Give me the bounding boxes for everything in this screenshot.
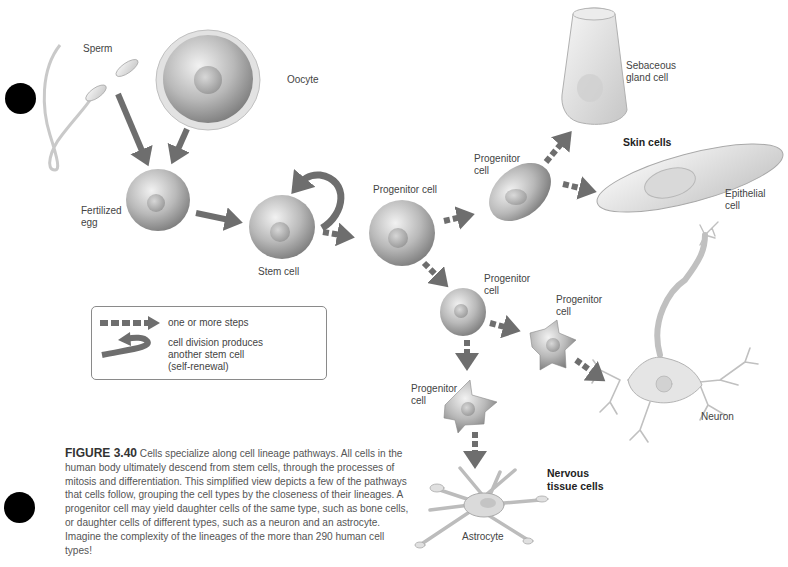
bullet-marker-bottom (4, 492, 35, 523)
progenitor-cell-nerve (440, 288, 486, 336)
bullet-marker-top (5, 83, 36, 114)
progenitor-cell-main (369, 200, 435, 266)
progenitor-cell-neuron (530, 320, 576, 370)
label-neuron: Neuron (701, 411, 734, 423)
figure-number: FIGURE 3.40 (65, 446, 137, 460)
label-progenitor-main: Progenitor cell (373, 184, 437, 196)
sebaceous-gland-cell (562, 8, 627, 124)
legend-dashed-label: one or more steps (168, 317, 249, 329)
curved-arrow-icon (102, 332, 148, 355)
label-stem-cell: Stem cell (258, 266, 299, 278)
label-progenitor-skin: Progenitor cell (474, 153, 520, 177)
label-progenitor-nerve: Progenitor cell (484, 273, 530, 297)
oocyte-illustration (156, 30, 260, 130)
figure-caption-text: Cells specialize along cell lineage path… (65, 448, 408, 556)
label-oocyte: Oocyte (287, 74, 319, 86)
label-skin-cells: Skin cells (623, 136, 671, 149)
label-progenitor-astro: Progenitor cell (411, 383, 457, 407)
label-nervous-tissue: Nervous tissue cells (547, 467, 604, 493)
fertilized-egg-illustration (126, 169, 190, 231)
label-sperm: Sperm (83, 43, 112, 55)
neuron-illustration (592, 222, 758, 442)
dashed-arrow-icon (100, 316, 160, 330)
label-astrocyte: Astrocyte (462, 531, 504, 543)
label-fertilized-egg: Fertilized egg (81, 205, 122, 229)
stem-cell-illustration (249, 195, 315, 259)
label-progenitor-neuron: Progenitor cell (556, 294, 602, 318)
legend-curved-label: cell division produces another stem cell… (168, 337, 263, 373)
label-sebaceous: Sebaceous gland cell (626, 60, 676, 84)
legend-box: one or more steps cell division produces… (91, 306, 327, 380)
label-epithelial: Epithelial cell (725, 188, 766, 212)
figure-caption: FIGURE 3.40 Cells specialize along cell … (65, 447, 410, 557)
